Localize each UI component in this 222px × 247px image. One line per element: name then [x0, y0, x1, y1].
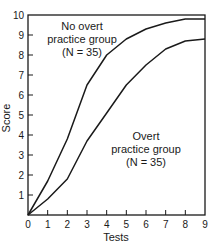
x-tick-label: 6 — [143, 219, 149, 230]
x-tick-label: 9 — [202, 219, 208, 230]
y-tick-label: 1 — [18, 190, 24, 201]
x-tick-label: 7 — [163, 219, 169, 230]
y-tick-label: 4 — [18, 130, 24, 141]
data-lines — [28, 19, 205, 215]
x-tick-label: 2 — [65, 219, 71, 230]
line-chart: 012345678912345678910 No overtpractice g… — [0, 0, 222, 247]
series-annotations: No overtpractice group(N = 35)Overtpract… — [47, 20, 181, 168]
y-tick-label: 2 — [18, 170, 24, 181]
series-annotation-line: practice group — [111, 143, 181, 155]
series-annotation-line: practice group — [47, 33, 117, 45]
y-tick-label: 6 — [18, 90, 24, 101]
x-tick-label: 8 — [183, 219, 189, 230]
series-line-overt — [28, 39, 205, 215]
y-tick-label: 10 — [13, 10, 25, 21]
y-axis-label: Score — [0, 104, 12, 133]
x-tick-label: 4 — [104, 219, 110, 230]
y-tick-label: 5 — [18, 110, 24, 121]
series-annotation-line: (N = 35) — [62, 46, 102, 58]
series-line-no-overt — [28, 19, 205, 215]
y-tick-label: 9 — [18, 30, 24, 41]
y-tick-label: 7 — [18, 70, 24, 81]
x-axis-label: Tests — [103, 231, 129, 243]
x-tick-label: 1 — [45, 219, 51, 230]
plot-frame — [28, 15, 205, 215]
series-annotation-line: (N = 35) — [126, 156, 166, 168]
series-annotation-line: Overt — [133, 130, 160, 142]
plot-border — [28, 15, 205, 215]
series-annotation-line: No overt — [61, 20, 103, 32]
y-tick-label: 3 — [18, 150, 24, 161]
x-tick-label: 0 — [25, 219, 31, 230]
y-tick-label: 8 — [18, 50, 24, 61]
x-tick-label: 3 — [84, 219, 90, 230]
x-tick-label: 5 — [124, 219, 130, 230]
